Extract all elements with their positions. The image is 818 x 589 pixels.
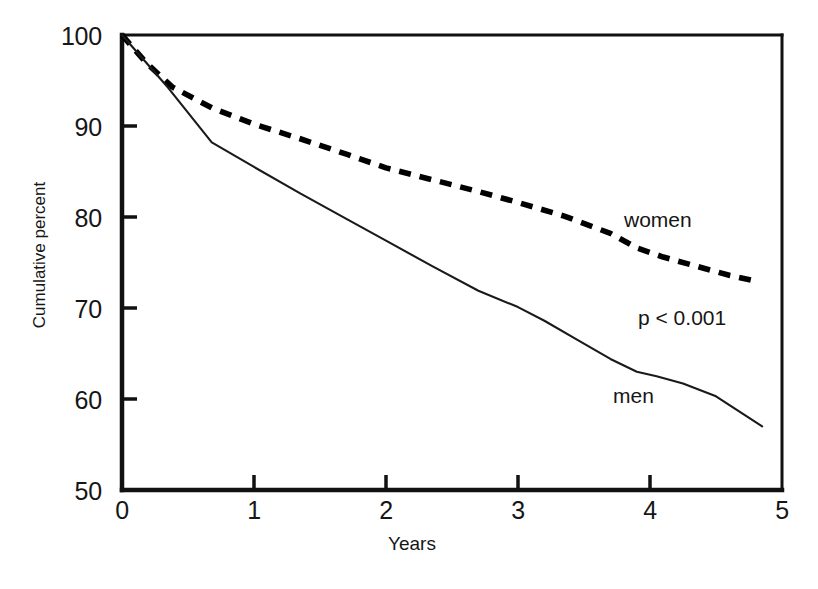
p-value-annotation: p < 0.001	[638, 306, 726, 330]
survival-chart-figure: 100 90 80 70 60 50 0 1 2 3 4 5 Cumulativ…	[0, 0, 818, 589]
y-tick-label-100: 100	[40, 22, 102, 51]
x-tick-label-0: 0	[102, 496, 142, 525]
x-tick-label-1: 1	[234, 496, 274, 525]
x-tick-label-3: 3	[498, 496, 538, 525]
x-tick-label-2: 2	[366, 496, 406, 525]
series-label-men: men	[613, 384, 654, 408]
x-axis-title: Years	[352, 533, 472, 555]
x-tick-label-4: 4	[630, 496, 670, 525]
series-label-women: women	[624, 208, 692, 232]
series-line-women	[122, 35, 758, 282]
y-axis-title: Cumulative percent	[30, 135, 50, 375]
x-tick-label-5: 5	[762, 496, 802, 525]
y-tick-label-60: 60	[40, 386, 102, 415]
y-tick-label-50: 50	[40, 477, 102, 506]
